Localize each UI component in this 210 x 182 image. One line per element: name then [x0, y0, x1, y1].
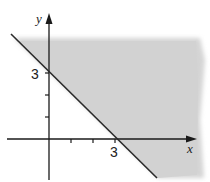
y-axis-arrow-icon — [46, 13, 53, 24]
shaded-region-core — [18, 41, 198, 178]
x-intercept-label: 3 — [110, 144, 118, 160]
y-intercept-label: 3 — [31, 66, 39, 82]
y-axis-label: y — [34, 11, 42, 26]
x-axis-label: x — [186, 141, 193, 156]
inequality-graph: y x 3 3 — [0, 0, 210, 182]
